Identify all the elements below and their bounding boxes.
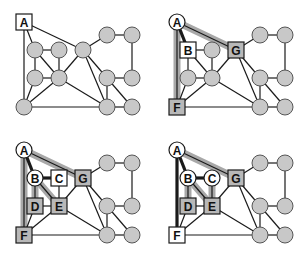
node-R1-unvisited — [99, 155, 115, 171]
node-R4-unvisited — [124, 198, 140, 214]
node-G-label: G — [78, 172, 87, 186]
node-R3-unvisited — [99, 70, 115, 86]
node-R2-unvisited — [277, 155, 293, 171]
node-A-label: A — [20, 144, 29, 158]
node-D-label: D — [184, 200, 193, 214]
node-E-unvisited — [204, 70, 220, 86]
node-R5-unvisited — [99, 227, 115, 243]
node-A-label: A — [173, 16, 182, 30]
node-F-label: F — [173, 101, 180, 115]
node-R5-unvisited — [252, 227, 268, 243]
panel-step-4: ABCGDEF — [169, 142, 293, 243]
node-D-unvisited — [180, 70, 196, 86]
node-R5-unvisited — [99, 99, 115, 115]
node-E-label: E — [208, 200, 216, 214]
node-R6-unvisited — [124, 99, 140, 115]
node-A-label: A — [173, 144, 182, 158]
node-R3-unvisited — [252, 198, 268, 214]
node-C-unvisited — [204, 42, 220, 58]
node-B-label: B — [31, 172, 40, 186]
node-F-label: F — [173, 229, 180, 243]
panel-step-1: A — [16, 14, 140, 115]
node-R2-unvisited — [124, 27, 140, 43]
node-E-label: E — [55, 200, 63, 214]
node-B-label: B — [184, 44, 193, 58]
node-R1-unvisited — [99, 27, 115, 43]
node-R5-unvisited — [252, 99, 268, 115]
node-B-label: B — [184, 172, 193, 186]
node-G-label: G — [231, 44, 240, 58]
node-D-unvisited — [27, 70, 43, 86]
node-R1-unvisited — [252, 155, 268, 171]
node-E-unvisited — [51, 70, 67, 86]
node-R6-unvisited — [124, 227, 140, 243]
node-R2-unvisited — [277, 27, 293, 43]
node-R3-unvisited — [252, 70, 268, 86]
node-F-unvisited — [16, 99, 32, 115]
node-C-unvisited — [51, 42, 67, 58]
node-C-label: C — [55, 172, 64, 186]
node-F-label: F — [20, 229, 27, 243]
panel-step-2: ABGF — [169, 14, 293, 115]
node-R4-unvisited — [124, 70, 140, 86]
node-D-label: D — [31, 200, 40, 214]
node-R4-unvisited — [277, 198, 293, 214]
node-A-label: A — [20, 16, 29, 30]
graph-search-diagram: AABGFABCGDEFABCGDEF — [0, 0, 306, 256]
panel-step-3: ABCGDEF — [16, 142, 140, 243]
node-R4-unvisited — [277, 70, 293, 86]
node-R6-unvisited — [277, 99, 293, 115]
node-R6-unvisited — [277, 227, 293, 243]
node-R2-unvisited — [124, 155, 140, 171]
node-C-label: C — [208, 172, 217, 186]
node-B-unvisited — [27, 42, 43, 58]
node-R3-unvisited — [99, 198, 115, 214]
diagram-canvas: AABGFABCGDEFABCGDEF — [0, 0, 306, 256]
node-G-label: G — [231, 172, 240, 186]
node-R1-unvisited — [252, 27, 268, 43]
node-G-unvisited — [75, 42, 91, 58]
